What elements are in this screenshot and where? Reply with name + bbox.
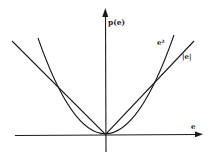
abs-e-label: |e| — [182, 52, 192, 61]
e-squared-label: e² — [157, 38, 165, 47]
y-axis-arrow-icon — [102, 8, 108, 17]
x-axis-arrow-icon — [195, 132, 203, 138]
y-axis — [102, 8, 108, 152]
x-axis — [15, 132, 203, 138]
y-axis-label: p(e) — [108, 18, 125, 27]
x-axis-label: e — [191, 122, 196, 131]
loss-function-diagram: p(e) e² |e| e — [0, 0, 211, 160]
